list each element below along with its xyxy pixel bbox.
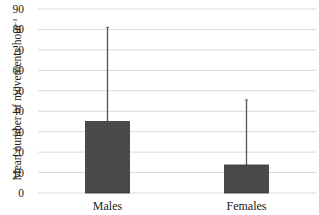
y-axis-label: Mean number of movements hour-1 xyxy=(11,4,24,194)
x-tick-label: Males xyxy=(93,199,123,213)
x-tick-label: Females xyxy=(227,199,267,213)
bar-males xyxy=(86,121,130,193)
bar-females xyxy=(225,165,269,193)
bar-chart: 0102030405060708090MalesFemales Mean num… xyxy=(0,0,319,215)
chart-plot: 0102030405060708090MalesFemales xyxy=(0,0,319,215)
